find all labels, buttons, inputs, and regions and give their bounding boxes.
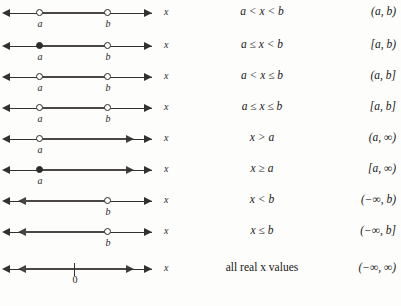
endpoint-b [104,197,111,204]
endpoint-a [36,73,43,80]
right-arrow-icon [144,166,152,174]
number-line-open-closed: a b x [0,66,185,100]
interval-notation: (a, ∞) [330,131,396,143]
left-arrow-icon [2,166,10,174]
endpoint-label-a: a [33,51,47,63]
number-line-less-equal-b: b x [0,221,185,255]
endpoint-label-b: b [101,82,115,94]
interval-ray [22,200,108,202]
right-arrow-icon [126,135,134,143]
inequality-text: x > a [196,131,328,143]
axis-variable-label: x [164,6,168,17]
interval-row: b x x ≤ b (−∞, b] [0,221,401,255]
left-arrow-icon [2,73,10,81]
interval-row: b x x < b (−∞, b) [0,190,401,224]
inequality-text: a ≤ x ≤ b [196,100,328,112]
left-arrow-icon [2,197,10,205]
endpoint-b [104,42,111,49]
interval-row: a b x a ≤ x ≤ b [a, b] [0,97,401,131]
left-arrow-icon [2,265,10,273]
left-arrow-icon [2,42,10,50]
axis-variable-label: x [164,70,168,81]
left-arrow-icon [2,9,10,17]
right-arrow-icon [144,42,152,50]
inequality-text: a ≤ x < b [196,38,328,50]
right-arrow-icon [144,265,152,273]
endpoint-b [104,228,111,235]
right-arrow-icon [144,73,152,81]
endpoint-label-b: b [101,237,115,249]
number-line-closed-closed: a b x [0,97,185,131]
interval-segment [40,45,108,47]
interval-row: a x x > a (a, ∞) [0,128,401,162]
right-arrow-icon [126,166,134,174]
endpoint-label-a: a [33,113,47,125]
axis-variable-label: x [164,163,168,174]
interval-row: a b x a < x < b (a, b) [0,2,401,36]
inequality-text: x ≥ a [196,162,328,174]
axis-variable-label: x [164,132,168,143]
interval-notation: (a, b] [330,69,396,81]
endpoint-a [36,9,43,16]
interval-ray [40,138,132,140]
endpoint-label-a: a [33,82,47,94]
axis-variable-label: x [164,194,168,205]
axis-variable-label: x [164,225,168,236]
axis-variable-label: x [164,101,168,112]
right-arrow-icon [144,197,152,205]
figure-page: a b x a < x < b (a, b) a b x a ≤ x < b [… [0,0,401,306]
number-line-all-reals: 0 x [0,258,185,292]
number-line-closed-open: a b x [0,35,185,69]
axis-variable-label: x [164,39,168,50]
interval-row: 0 x all real x values (−∞, ∞) [0,258,401,292]
number-line-greater-equal-a: a x [0,159,185,193]
endpoint-a [36,135,43,142]
axis-variable-label: x [164,262,168,273]
interval-ray [22,231,108,233]
inequality-text: a < x ≤ b [196,69,328,81]
inequality-text: a < x < b [196,5,328,17]
endpoint-label-b: b [101,206,115,218]
inequality-text: x < b [196,193,328,205]
interval-segment [40,12,108,14]
left-arrow-icon [2,104,10,112]
interval-notation: (−∞, ∞) [330,261,396,273]
number-line-open-open: a b x [0,2,185,36]
interval-row: a x x ≥ a [a, ∞) [0,159,401,193]
left-arrow-icon [2,135,10,143]
endpoint-b [104,73,111,80]
interval-row: a b x a < x ≤ b (a, b] [0,66,401,100]
endpoint-label-a: a [33,144,47,156]
inequality-text: all real x values [196,261,328,273]
zero-label: 0 [68,274,82,286]
right-arrow-icon [144,104,152,112]
right-arrow-icon [126,265,134,273]
endpoint-label-a: a [33,175,47,187]
endpoint-a [36,104,43,111]
interval-notation: (−∞, b) [330,193,396,205]
endpoint-label-b: b [101,113,115,125]
interval-ray [22,268,132,270]
interval-segment [40,107,108,109]
number-line-less-than-b: b x [0,190,185,224]
right-arrow-icon [144,135,152,143]
endpoint-label-a: a [33,18,47,30]
number-line-greater-than-a: a x [0,128,185,162]
interval-segment [40,76,108,78]
endpoint-b [104,9,111,16]
right-arrow-icon [144,9,152,17]
interval-notation: [a, b) [330,38,396,50]
interval-notation: [a, b] [330,100,396,112]
interval-notation: (a, b) [330,5,396,17]
interval-row: a b x a ≤ x < b [a, b) [0,35,401,69]
endpoint-label-b: b [101,51,115,63]
right-arrow-icon [144,228,152,236]
endpoint-a [36,166,43,173]
interval-notation: (−∞, b] [330,224,396,236]
endpoint-a [36,42,43,49]
left-arrow-icon [2,228,10,236]
interval-ray [40,169,132,171]
endpoint-label-b: b [101,18,115,30]
inequality-text: x ≤ b [196,224,328,236]
endpoint-b [104,104,111,111]
